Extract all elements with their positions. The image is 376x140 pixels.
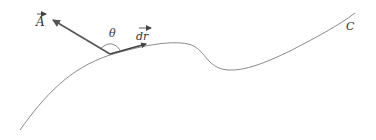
label-theta: θ (109, 27, 116, 40)
svg-text:dr: dr (136, 30, 149, 43)
vector-a-arrow (53, 20, 110, 54)
svg-text:A: A (35, 15, 45, 29)
diagram-canvas: A θ dr C (0, 0, 376, 140)
label-dr: dr (136, 28, 151, 43)
label-vector-a: A (35, 14, 46, 29)
label-curve-c: C (346, 20, 355, 33)
